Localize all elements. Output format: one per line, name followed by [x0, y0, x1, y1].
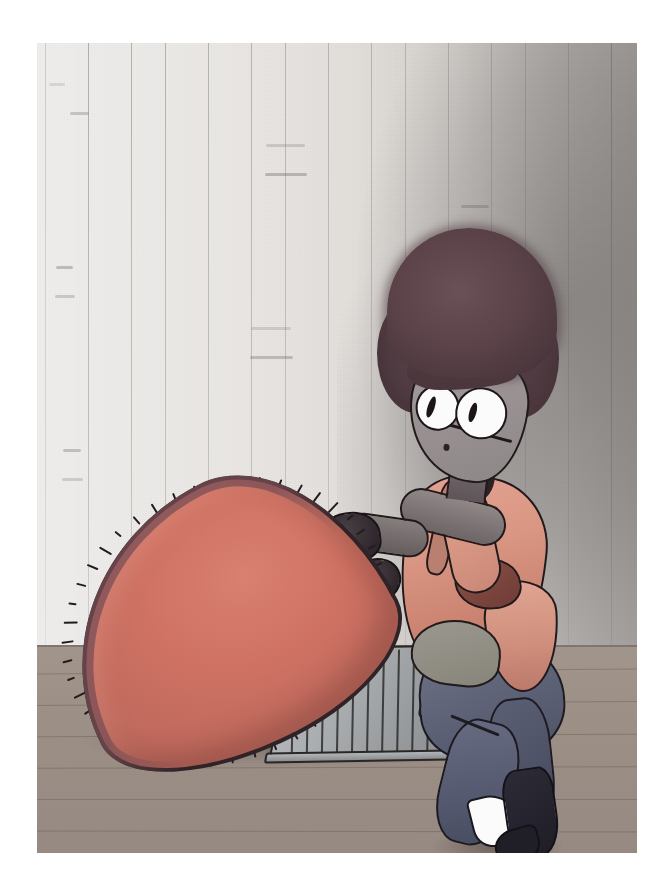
bristle — [86, 565, 98, 571]
paper-page — [0, 0, 672, 896]
bristle — [115, 531, 122, 537]
bristle — [62, 641, 74, 644]
character-hair — [387, 228, 557, 378]
wall-dash — [250, 356, 293, 359]
bristle — [68, 603, 76, 606]
nose — [443, 444, 450, 452]
wall-dash — [265, 173, 307, 176]
bristle — [76, 583, 86, 587]
wall-dash — [63, 449, 81, 452]
bristle — [357, 528, 366, 535]
bristle — [63, 622, 77, 624]
wall-dash — [55, 295, 75, 298]
wall-dash — [70, 112, 89, 115]
bristle — [368, 544, 376, 549]
wall-seam — [45, 43, 46, 648]
bristle — [99, 547, 112, 555]
red-furry-object — [59, 488, 389, 756]
bristle — [67, 677, 75, 681]
wall-dash — [266, 144, 305, 147]
wall-dash — [56, 266, 73, 269]
wall-dash — [49, 83, 65, 86]
bristle — [328, 502, 339, 513]
right-eye — [453, 385, 510, 442]
bristle — [346, 514, 353, 520]
bristle — [63, 659, 73, 663]
wall-dash — [62, 478, 83, 481]
artwork-canvas — [37, 43, 637, 853]
bristle — [132, 516, 140, 525]
wall-dash — [461, 205, 489, 208]
wall-dash — [251, 327, 291, 330]
